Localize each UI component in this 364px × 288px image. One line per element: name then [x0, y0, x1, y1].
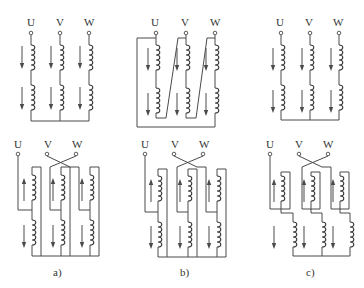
current-arrow-icon	[20, 87, 24, 110]
terminal-v	[184, 31, 188, 35]
diagram-c-bottom: U V W c)	[266, 138, 354, 279]
terminal-w	[213, 31, 217, 35]
caption-a: a)	[53, 266, 62, 279]
terminal-v	[45, 152, 49, 156]
terminal-w	[326, 152, 330, 156]
terminal-u	[29, 31, 33, 35]
caption-b: b)	[180, 266, 190, 279]
terminal-label-v: V	[181, 16, 189, 28]
terminal-label-v: V	[305, 16, 313, 28]
terminal-label-w: W	[72, 138, 83, 150]
caption-c: c)	[306, 266, 315, 279]
diagram-b-top: U V W	[137, 16, 221, 127]
diagram-a-bottom: U V W a)	[14, 138, 99, 279]
terminal-w	[337, 31, 341, 35]
diagram-b-bottom: U V W b)	[141, 138, 226, 279]
terminal-u	[16, 152, 20, 156]
terminal-label-v: V	[56, 16, 64, 28]
diagram-a-top: U V W	[20, 16, 95, 121]
terminal-label-u: U	[151, 16, 159, 28]
terminal-v	[297, 152, 301, 156]
terminal-u	[154, 31, 158, 35]
terminal-v	[58, 31, 62, 35]
terminal-label-w: W	[323, 138, 334, 150]
terminal-label-w: W	[84, 16, 95, 28]
terminal-w	[87, 31, 91, 35]
terminal-label-u: U	[266, 138, 274, 150]
terminal-label-w: W	[210, 16, 221, 28]
terminal-label-u: U	[141, 138, 149, 150]
diagram-c-top: U V W	[271, 16, 344, 120]
terminal-u	[279, 31, 283, 35]
terminal-v	[308, 31, 312, 35]
terminal-label-v: V	[171, 138, 179, 150]
terminal-label-w: W	[333, 16, 344, 28]
terminal-v	[172, 152, 176, 156]
terminal-label-u: U	[276, 16, 284, 28]
terminal-w	[201, 152, 205, 156]
terminal-w	[74, 152, 78, 156]
terminal-label-u: U	[27, 16, 35, 28]
current-arrow-icon	[20, 46, 24, 69]
terminal-label-w: W	[199, 138, 210, 150]
terminal-u	[143, 152, 147, 156]
terminal-u	[268, 152, 272, 156]
terminal-label-v: V	[44, 138, 52, 150]
terminal-label-u: U	[14, 138, 22, 150]
terminal-label-v: V	[295, 138, 303, 150]
winding-connection-diagram: U V W U V W	[0, 0, 364, 288]
